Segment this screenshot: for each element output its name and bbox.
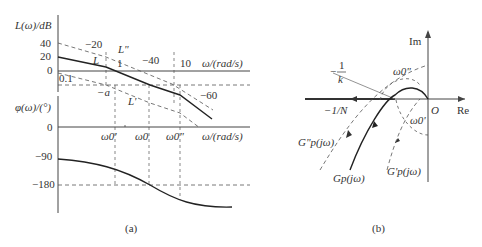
nyquist-panel: Im Re O − 1 k −1/N ω0" ω0' G"p(jω) Gp(jω… [298,30,469,235]
omega0-prime-label: ω0' [410,114,426,126]
gp-curve [350,88,428,170]
g-prime-curve [387,99,420,170]
omega-double-prime-arc [380,79,420,100]
re-label: Re [457,104,469,116]
magnitude-ylabel: L(ω)/dB [14,19,52,32]
inv-k-den: k [338,73,344,85]
inv-k-num: 1 [339,59,345,71]
gp-label: Gp(jω) [333,172,365,185]
g-prime-arrow-icon [395,138,400,143]
label-omega0-double-prime: ω0" [166,130,184,142]
magnitude-xlabel: ω/(rad/s) [202,57,243,70]
figure-canvas: L(ω)/dB 40 20 0 0.1 −20 L L" 1 −40 10 ω/… [0,0,482,247]
caption-a: (a) [125,222,138,235]
origin-label: O [431,104,439,116]
g-prime-label: G'p(jω) [387,165,421,178]
slope-minus-20: −20 [85,38,103,50]
phase-curve [58,159,232,207]
ytick-40: 40 [40,37,52,49]
minus-inv-n-arrow-icon [350,96,357,102]
g-double-prime-arrow-icon [346,130,352,138]
ytick-20: 20 [40,50,52,62]
xtick-10: 10 [180,57,192,69]
xtick-1: 1 [117,57,123,69]
label-omega0-prime: ω0' [101,130,117,142]
omega0-double-prime-label: ω0" [393,65,411,77]
g-double-prime-label: G"p(jω) [298,136,335,149]
label-L-double-prime: L" [117,43,129,55]
re-arrow-icon [458,96,465,102]
slope-minus-40: −40 [142,54,160,66]
phase-ytick-0: 0 [47,121,53,133]
phase-ytick-180: −180 [32,178,55,190]
label-L: L [92,54,99,66]
im-label: Im [409,35,422,47]
label-minus-a: −a [97,86,110,98]
caption-b: (b) [372,222,385,235]
im-arrow-icon [425,30,431,38]
phase-xlabel: ω/(rad/s) [202,130,243,143]
label-omega0: ω0 [135,130,149,142]
slope-minus-60: −60 [200,89,218,101]
xtick-0-1: 0.1 [59,72,73,84]
minus-inv-n-label: −1/N [324,104,348,116]
bode-panel: L(ω)/dB 40 20 0 0.1 −20 L L" 1 −40 10 ω/… [14,15,250,235]
label-L-prime: L' [127,95,137,107]
minus-sign: − [330,65,336,77]
phase-ytick-90: −90 [35,150,53,162]
ytick-0: 0 [47,64,53,76]
phase-ylabel: φ(ω)/(°) [15,101,51,114]
